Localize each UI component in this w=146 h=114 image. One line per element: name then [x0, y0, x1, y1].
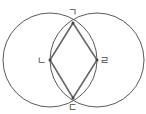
- point-top: [72, 22, 75, 25]
- label-right: ㄹ: [100, 55, 109, 66]
- point-right: [96, 59, 99, 62]
- label-bottom: ㄷ: [68, 102, 77, 113]
- point-bottom: [72, 97, 75, 100]
- point-left: [49, 59, 52, 62]
- label-left: ㄴ: [37, 55, 46, 66]
- rhombus: [50, 23, 97, 98]
- diagram-canvas: ㄱ ㄴ ㄷ ㄹ: [0, 0, 146, 114]
- label-top: ㄱ: [68, 7, 77, 18]
